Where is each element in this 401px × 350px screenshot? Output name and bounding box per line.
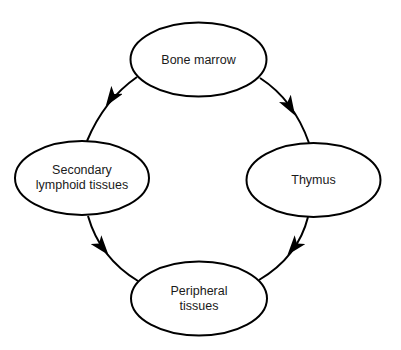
label-line: tissues: [171, 299, 228, 314]
label-thymus: Thymus: [291, 173, 335, 188]
label-line: Secondary: [36, 163, 128, 178]
edge-bone-marrow-to-thymus: [260, 78, 309, 143]
label-line: Bone marrow: [161, 52, 235, 67]
label-peripheral-tissues: Peripheral tissues: [171, 284, 228, 314]
edge-thymus-to-peripheral: [259, 217, 308, 280]
arrow-icon: [290, 217, 308, 252]
edge-bone-marrow-to-secondary: [87, 77, 137, 141]
edge-secondary-to-peripheral: [88, 216, 138, 281]
arrow-icon: [260, 78, 293, 112]
label-secondary-lymphoid: Secondary lymphoid tissues: [36, 163, 128, 193]
label-line: Peripheral: [171, 284, 228, 299]
label-line: lymphoid tissues: [36, 178, 128, 193]
label-bone-marrow: Bone marrow: [161, 52, 235, 67]
label-line: Thymus: [291, 173, 335, 188]
